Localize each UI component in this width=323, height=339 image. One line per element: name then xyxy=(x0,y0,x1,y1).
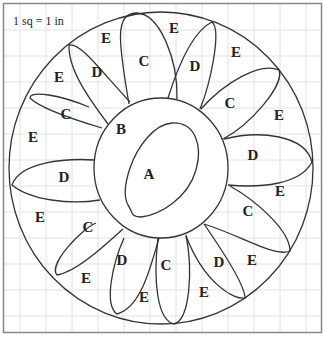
petal-d-left xyxy=(12,160,100,202)
flower-region-diagram: 1 sq = 1 in ECEDEEDCCEEBDDAEECCDCDEEEE xyxy=(0,0,323,339)
region-label-e: E xyxy=(275,183,285,199)
region-label-e: E xyxy=(247,252,257,268)
inner-circle-b xyxy=(94,98,228,238)
region-label-d: D xyxy=(59,169,70,185)
region-label-e: E xyxy=(199,284,209,300)
region-label-e: E xyxy=(28,129,38,145)
region-label-e: E xyxy=(274,107,284,123)
region-label-d: D xyxy=(92,64,103,80)
region-label-e: E xyxy=(81,270,91,286)
region-label-e: E xyxy=(101,30,111,46)
scale-label: 1 sq = 1 in xyxy=(13,14,64,28)
region-label-c: C xyxy=(83,219,94,235)
region-label-e: E xyxy=(231,44,241,60)
region-label-d: D xyxy=(248,147,259,163)
region-label-d: D xyxy=(117,252,128,268)
region-label-e: E xyxy=(169,20,179,36)
region-label-d: D xyxy=(214,254,225,270)
region-label-b: B xyxy=(116,121,126,137)
region-label-d: D xyxy=(190,58,201,74)
region-label-c: C xyxy=(161,257,172,273)
region-label-c: C xyxy=(61,106,72,122)
region-label-e: E xyxy=(54,69,64,85)
region-label-c: C xyxy=(139,53,150,69)
region-label-c: C xyxy=(225,95,236,111)
petal-c-bottom xyxy=(156,235,190,324)
region-label-a: A xyxy=(144,166,155,182)
petal-d-lower-left xyxy=(110,238,159,314)
region-label-e: E xyxy=(35,209,45,225)
region-label-c: C xyxy=(243,203,254,219)
region-label-e: E xyxy=(139,289,149,305)
